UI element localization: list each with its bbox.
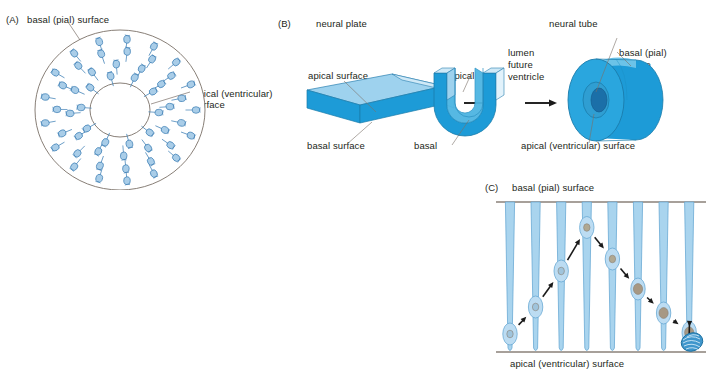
cell-soma: [77, 104, 85, 111]
migrating-cell-nucleus: [631, 278, 645, 300]
plate-basal-leader: [346, 122, 372, 145]
arrow-right-icon-2: [525, 100, 557, 107]
groove-right-outer-wall: [496, 68, 504, 100]
neural-plate-slab: [307, 74, 454, 123]
groove-apical-leader: [463, 72, 472, 92]
radial-glial-fiber: [659, 202, 668, 351]
cell-soma: [123, 35, 130, 43]
tube-lumen-hole: [591, 88, 607, 112]
migrating-cell-nucleus: [554, 260, 568, 282]
migrating-cell-nucleus: [580, 217, 594, 239]
nucleus: [633, 284, 642, 295]
radial-glial-fiber: [633, 202, 642, 351]
migrating-cell-nucleus: [528, 296, 542, 318]
nucleus: [507, 330, 513, 338]
cell-soma: [123, 47, 131, 56]
cell-soma: [123, 176, 130, 184]
migrating-cell-nucleus: [503, 323, 517, 345]
migration-arrow-shaft: [543, 285, 551, 297]
cell-soma: [155, 109, 163, 116]
nucleus: [659, 308, 668, 319]
panel-a-lumen-circle: [90, 83, 150, 137]
radial-glial-fiber: [531, 202, 540, 351]
migrating-cell-nucleus: [656, 302, 670, 324]
panel-a-drawing: [0, 0, 250, 190]
figure-canvas: (A) basal (pial) surface apical (ventric…: [0, 0, 714, 380]
groove-left-inner-wall: [447, 68, 455, 100]
cell-soma: [66, 110, 74, 117]
migrating-cell-nucleus: [605, 248, 619, 270]
cell-soma: [166, 103, 174, 110]
groove-outer-body: [434, 73, 496, 136]
nucleus: [609, 255, 615, 263]
panel-c-drawing: [484, 190, 714, 370]
panel-a-basal-leader: [68, 22, 80, 40]
nucleus: [558, 267, 564, 275]
radial-glial-fiber: [608, 202, 617, 351]
cell-soma: [192, 107, 200, 114]
nucleus: [532, 303, 538, 311]
panel-c-fibers: [505, 202, 693, 351]
cell-soma: [53, 106, 61, 113]
migration-arrow-shaft: [568, 243, 578, 261]
panel-b-drawing: [244, 0, 714, 175]
cell-soma: [122, 164, 129, 172]
nucleus: [584, 224, 590, 232]
migration-arrow-head: [672, 319, 678, 324]
cell-soma: [113, 60, 120, 68]
neural-tube-cylinder: [568, 57, 663, 141]
cell-soma: [120, 152, 127, 160]
